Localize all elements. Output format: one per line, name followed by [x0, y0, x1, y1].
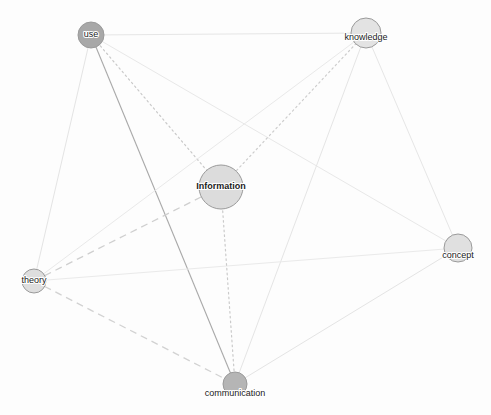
- graph-node-Information[interactable]: Information: [196, 165, 246, 209]
- graph-node-use[interactable]: use: [78, 22, 104, 48]
- graph-node-label-communication: communication: [205, 388, 266, 398]
- graph-edge-knowledge-Information[interactable]: [221, 33, 366, 187]
- graph-edge-theory-Information[interactable]: [34, 187, 221, 281]
- graph-node-concept[interactable]: concept: [442, 234, 474, 262]
- graph-edges-layer: [34, 33, 458, 384]
- graph-edge-knowledge-theory[interactable]: [34, 33, 366, 281]
- graph-node-label-theory: theory: [21, 275, 47, 285]
- graph-edge-use-theory[interactable]: [34, 35, 91, 281]
- graph-edge-use-concept[interactable]: [91, 35, 458, 248]
- graph-node-label-concept: concept: [442, 250, 474, 260]
- graph-edge-theory-communication[interactable]: [34, 281, 235, 384]
- graph-edge-theory-concept[interactable]: [34, 248, 458, 281]
- graph-node-knowledge[interactable]: knowledge: [344, 18, 387, 48]
- network-graph-canvas: useknowledgeInformationconcepttheorycomm…: [0, 0, 491, 415]
- graph-edge-knowledge-communication[interactable]: [235, 33, 366, 384]
- graph-edge-use-knowledge[interactable]: [91, 33, 366, 35]
- graph-node-label-knowledge: knowledge: [344, 32, 387, 42]
- graph-edge-knowledge-concept[interactable]: [366, 33, 458, 248]
- network-graph-svg: useknowledgeInformationconcepttheorycomm…: [0, 0, 491, 415]
- graph-node-label-use: use: [84, 29, 99, 39]
- graph-edge-use-communication[interactable]: [91, 35, 235, 384]
- graph-nodes-layer: useknowledgeInformationconcepttheorycomm…: [21, 18, 474, 398]
- graph-node-communication[interactable]: communication: [205, 372, 266, 398]
- graph-edge-use-Information[interactable]: [91, 35, 221, 187]
- graph-node-theory[interactable]: theory: [21, 269, 47, 293]
- graph-edge-concept-communication[interactable]: [235, 248, 458, 384]
- graph-node-label-Information: Information: [196, 181, 246, 191]
